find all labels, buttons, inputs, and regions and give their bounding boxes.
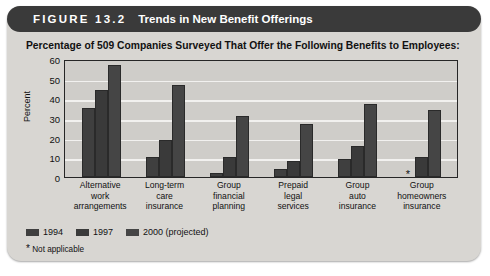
bar [364,104,377,177]
figure-header-band: FIGURE 13.2 Trends in New Benefit Offeri… [7,6,481,32]
figure-number-label: FIGURE 13.2 [33,13,126,25]
bar [210,173,223,177]
bar [300,124,313,177]
x-axis-label: Prepaidlegalservices [261,180,325,212]
bar [274,169,287,177]
plot-area: * [64,60,458,178]
bar [223,157,236,177]
legend-label: 1997 [93,227,113,237]
chart-legend: 199419972000 (projected) [26,227,209,237]
bar-group [69,61,133,177]
bar-group [133,61,197,177]
legend-swatch [76,229,89,236]
x-axis-label: Long-termcareinsurance [132,180,196,212]
y-axis-tick-label: 0 [55,173,60,184]
bar [287,161,300,177]
y-axis-title: Percent [22,91,32,122]
bar [172,85,185,177]
bar-group [325,61,389,177]
footnote-text: Not applicable [32,245,84,254]
legend-item: 2000 (projected) [126,227,209,237]
bar [338,159,351,177]
legend-label: 2000 (projected) [143,227,209,237]
footnote-star: * [26,243,30,254]
y-axis-tick-label: 20 [49,133,60,144]
legend-swatch [26,229,39,236]
legend-item: 1994 [26,227,63,237]
x-axis-label: Groupautoinsurance [325,180,389,212]
y-axis-ticks: 0102030405060 [34,60,60,178]
bar-group [261,61,325,177]
bar [82,108,95,177]
y-axis-tick-label: 40 [49,94,60,105]
chart-area: Percent 0102030405060 * Alternativeworka… [26,60,458,220]
legend-item: 1997 [76,227,113,237]
y-axis-tick-label: 30 [49,114,60,125]
figure-container: FIGURE 13.2 Trends in New Benefit Offeri… [0,0,490,276]
footnote: * Not applicable [26,243,84,254]
bar [159,140,172,177]
y-axis-tick-label: 10 [49,153,60,164]
bar [236,116,249,177]
y-axis-tick-label: 60 [49,55,60,66]
legend-swatch [126,229,139,236]
figure-subtitle: Percentage of 509 Companies Surveyed Tha… [26,40,466,51]
x-axis-label: Groupfinancialplanning [197,180,261,212]
bar-group: * [389,61,453,177]
not-applicable-marker: * [402,170,415,177]
legend-label: 1994 [43,227,63,237]
y-axis-tick-label: 50 [49,74,60,85]
bar-groups: * [65,61,457,177]
bar [415,157,428,177]
x-axis-label: Alternativeworkarrangements [68,180,132,212]
bar [146,157,159,177]
bar [351,146,364,177]
x-axis-labels: AlternativeworkarrangementsLong-termcare… [64,180,458,212]
bar-group [197,61,261,177]
bar [95,90,108,177]
figure-title: Trends in New Benefit Offerings [138,13,312,25]
bar [428,110,441,177]
bar [108,65,121,177]
x-axis-label: Grouphomeownersinsurance [390,180,454,212]
